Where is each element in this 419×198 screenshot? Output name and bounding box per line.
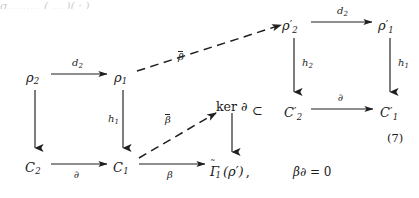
label-d2-right: d2 [337, 6, 348, 18]
subset-symbol: ⊂ [252, 104, 263, 117]
dashed-arrow-rho1-to-rho2p [137, 25, 281, 71]
node-rho-1: ρ1 [114, 71, 127, 86]
gamma-comma: , [246, 164, 250, 179]
side-equation-beta-del-zero: β∂ = 0 [293, 165, 332, 179]
node-rho-1-prime: ρ′1 [378, 19, 394, 34]
figure-canvas: σ……… ( … )( · ) [0, 0, 419, 198]
gamma-argument: (ρ′) [223, 164, 244, 179]
label-h2: h2 [302, 58, 313, 70]
label-beta-bar-upper: β [178, 52, 184, 62]
node-rho-2-prime: ρ′2 [282, 19, 298, 34]
side-eq-beta: β [293, 165, 300, 179]
label-beta-bar-lower: β [165, 115, 171, 125]
label-d2-left: d2 [72, 58, 83, 70]
node-C-2-prime: C′2 [284, 106, 302, 121]
node-rho-2: ρ2 [26, 71, 39, 86]
label-del-bottom-left: ∂ [74, 170, 79, 180]
node-C-1-prime: C′1 [380, 106, 398, 121]
node-ker-del: ker ∂ [216, 99, 247, 114]
equation-number: (7) [387, 131, 403, 145]
gamma-subscript: 1 [216, 170, 221, 180]
node-C-1: C1 [113, 161, 129, 176]
label-h1-right: h1 [398, 58, 409, 70]
label-h1-left: h1 [108, 114, 119, 126]
node-gamma-tilde: Γ˜1(ρ′), [210, 164, 255, 180]
node-C-2: C2 [25, 161, 41, 176]
del-operator: ∂ [241, 99, 247, 114]
label-beta: β [167, 170, 173, 180]
ker-keyword: ker [216, 99, 237, 114]
side-eq-rel: = 0 [310, 165, 332, 179]
dashed-arrow-C1-to-ker [139, 113, 216, 158]
cropped-text-above: σ……… ( … )( · ) [0, 0, 419, 9]
label-del-bottom-right: ∂ [338, 93, 343, 103]
